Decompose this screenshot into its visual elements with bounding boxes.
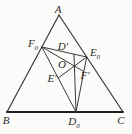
label-D0: D0	[67, 115, 80, 130]
label-E0: E0	[89, 46, 101, 61]
label-F-prime: F′	[79, 69, 90, 81]
segment-Dp-D0	[74, 54, 76, 112]
segment-E0-D0	[76, 57, 87, 112]
label-A: A	[54, 3, 62, 15]
side-AB	[7, 15, 59, 112]
label-B: B	[3, 114, 10, 126]
label-O: O	[58, 58, 66, 70]
geometry-diagram: ABCD0F0E0D′OE′F′	[0, 0, 132, 134]
label-F0: F0	[27, 37, 39, 52]
geometry-figure: ABCD0F0E0D′OE′F′	[0, 0, 132, 134]
label-E-prime: E′	[46, 72, 57, 84]
label-D-prime: D′	[57, 40, 69, 52]
label-C: C	[117, 114, 125, 126]
